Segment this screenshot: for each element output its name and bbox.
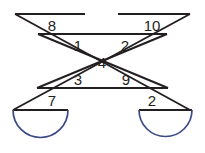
angle-label-2-top: 2	[121, 38, 129, 53]
angle-label-9: 9	[122, 72, 130, 87]
angle-label-7: 7	[48, 93, 56, 108]
angle-label-1: 1	[74, 38, 82, 53]
angle-label-8: 8	[48, 18, 56, 33]
angle-label-2-bottom: 2	[148, 93, 156, 108]
angle-label-10: 10	[144, 18, 161, 33]
right-semicircle-arc	[139, 110, 192, 137]
angle-label-3: 3	[74, 72, 82, 87]
left-semicircle-arc	[13, 110, 68, 138]
geometry-diagram: 8 10 1 2 4 3 9 7 2	[0, 0, 205, 153]
diagram-canvas	[0, 0, 205, 153]
angle-label-4: 4	[98, 55, 106, 70]
